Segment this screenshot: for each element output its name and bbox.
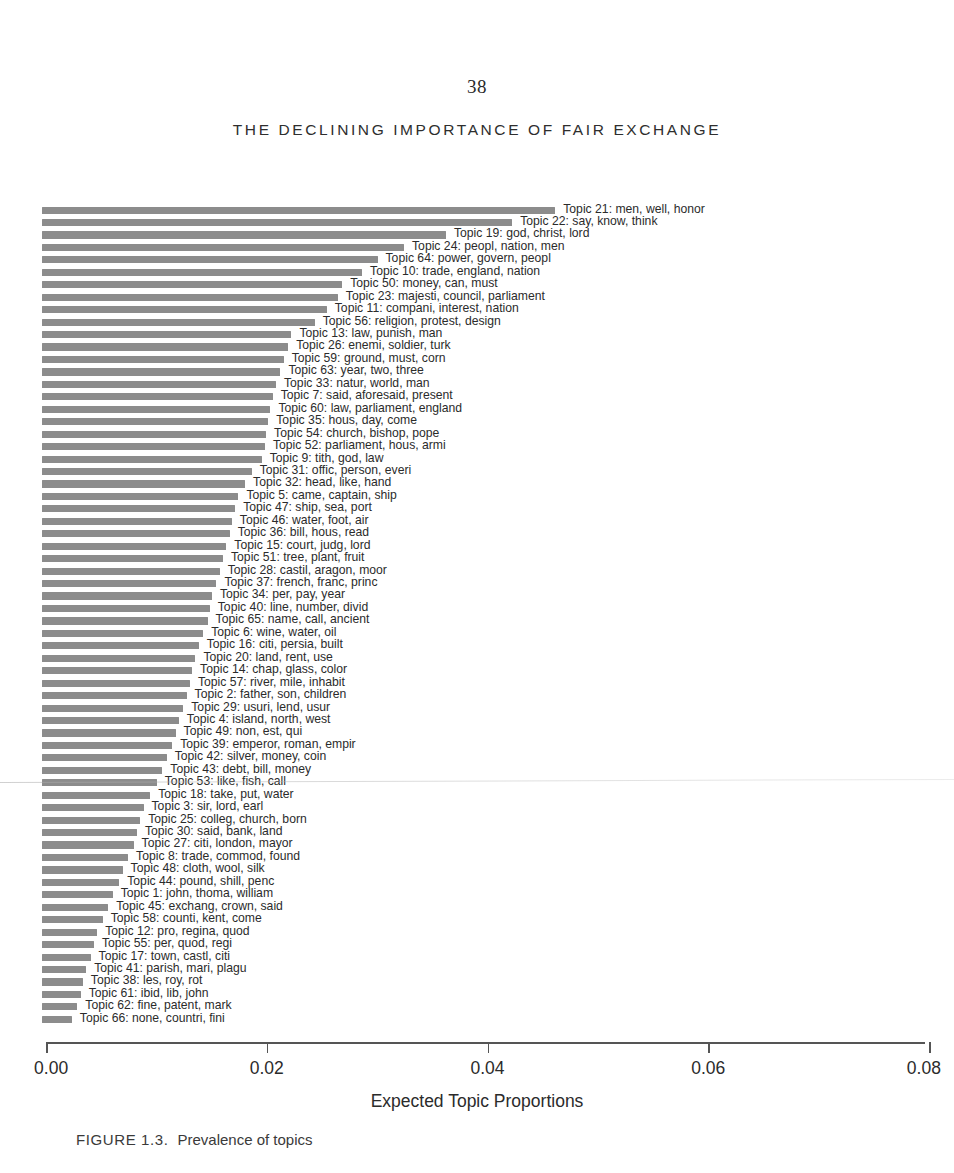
- figure-caption: FIGURE 1.3.Prevalence of topics: [76, 1131, 313, 1148]
- chart-plot-area: Topic 21: men, well, honorTopic 22: say,…: [0, 196, 954, 1026]
- chart-bar-label: Topic 58: counti, kent, come: [111, 912, 262, 924]
- chart-bar-row: Topic 20: land, rent, use: [0, 652, 954, 664]
- chart-bar-row: Topic 66: none, countri, fini: [0, 1013, 954, 1025]
- chart-bar: [42, 680, 190, 687]
- chart-bar-label: Topic 1: john, thoma, william: [121, 887, 273, 899]
- chart-bar-row: Topic 2: father, son, children: [0, 690, 954, 702]
- chart-bar: [42, 431, 266, 438]
- chart-bar: [42, 592, 212, 599]
- chart-bar-label: Topic 14: chap, glass, color: [200, 663, 347, 675]
- chart-bar: [42, 256, 378, 263]
- chart-bar: [42, 617, 208, 624]
- figure-number: FIGURE 1.3.: [76, 1131, 168, 1148]
- running-head: THE DECLINING IMPORTANCE OF FAIR EXCHANG…: [0, 121, 954, 139]
- chart-bar: [42, 655, 195, 662]
- x-axis-tick-label: 0.00: [34, 1058, 68, 1079]
- chart-bar-row: Topic 6: wine, water, oil: [0, 627, 954, 639]
- chart-bar: [42, 754, 167, 761]
- chart-bar-row: Topic 36: bill, hous, read: [0, 528, 954, 540]
- chart-bar-row: Topic 31: offic, person, everi: [0, 465, 954, 477]
- chart-bar: [42, 817, 140, 824]
- chart-bar: [42, 916, 103, 923]
- chart-bar-label: Topic 52: parliament, hous, armi: [273, 439, 446, 451]
- chart-bar: [42, 381, 276, 388]
- chart-bar-row: Topic 40: line, number, divid: [0, 602, 954, 614]
- chart-bar-label: Topic 51: tree, plant, fruit: [231, 551, 364, 563]
- x-axis-line: [46, 1042, 925, 1044]
- chart-bar-label: Topic 63: year, two, three: [288, 364, 424, 376]
- chart-bar: [42, 319, 315, 326]
- chart-bar-label: Topic 35: hous, day, come: [276, 414, 417, 426]
- chart-bar: [42, 530, 230, 537]
- x-axis-tick-label: 0.08: [907, 1058, 941, 1079]
- chart-bar-row: Topic 4: island, north, west: [0, 714, 954, 726]
- chart-bar-row: Topic 60: law, parliament, england: [0, 403, 954, 415]
- figure-prevalence-of-topics: Topic 21: men, well, honorTopic 22: say,…: [0, 196, 954, 1126]
- chart-bar-label: Topic 16: citi, persia, built: [207, 638, 343, 650]
- chart-bar-label: Topic 47: ship, sea, port: [243, 501, 372, 513]
- chart-bar: [42, 978, 83, 985]
- chart-bar-label: Topic 49: non, est, qui: [184, 725, 303, 737]
- chart-bar-label: Topic 66: none, countri, fini: [80, 1012, 225, 1024]
- chart-bar-row: Topic 51: tree, plant, fruit: [0, 553, 954, 565]
- chart-bar-label: Topic 26: enemi, soldier, turk: [296, 339, 450, 351]
- chart-bar: [42, 954, 91, 961]
- chart-bar: [42, 767, 162, 774]
- chart-bar: [42, 543, 226, 550]
- chart-bar-label: Topic 7: said, aforesaid, present: [281, 389, 453, 401]
- chart-bar-row: Topic 37: french, franc, princ: [0, 578, 954, 590]
- chart-bar: [42, 281, 342, 288]
- figure-caption-text: Prevalence of topics: [177, 1131, 312, 1148]
- chart-bar-label: Topic 64: power, govern, peopl: [386, 252, 551, 264]
- chart-bar: [42, 244, 404, 251]
- chart-bar: [42, 393, 273, 400]
- x-axis-tick: [708, 1042, 710, 1053]
- chart-bar: [42, 705, 183, 712]
- chart-bar-row: Topic 25: colleg, church, born: [0, 814, 954, 826]
- chart-bar-label: Topic 19: god, christ, lord: [454, 227, 589, 239]
- chart-bar-label: Topic 36: bill, hous, read: [238, 526, 369, 538]
- chart-bar: [42, 219, 512, 226]
- chart-bar: [42, 306, 327, 313]
- chart-bar: [42, 269, 362, 276]
- chart-bar-row: Topic 15: court, judg, lord: [0, 540, 954, 552]
- chart-bar: [42, 829, 137, 836]
- chart-bar: [42, 891, 113, 898]
- x-axis-tick-label: 0.04: [470, 1058, 504, 1079]
- chart-bar-label: Topic 48: cloth, wool, silk: [131, 862, 265, 874]
- chart-bar-label: Topic 34: per, pay, year: [220, 588, 345, 600]
- chart-bar-row: Topic 28: castil, aragon, moor: [0, 565, 954, 577]
- chart-bar: [42, 941, 94, 948]
- chart-bar: [42, 480, 245, 487]
- chart-bar-label: Topic 65: name, call, ancient: [216, 613, 370, 625]
- chart-bar-row: Topic 56: religion, protest, design: [0, 316, 954, 328]
- chart-bar: [42, 368, 280, 375]
- chart-bar: [42, 841, 134, 848]
- chart-bar: [42, 518, 232, 525]
- chart-bar: [42, 667, 192, 674]
- chart-bar-label: Topic 50: money, can, must: [350, 277, 497, 289]
- chart-bar: [42, 207, 555, 214]
- x-axis-tick: [267, 1042, 269, 1053]
- chart-bar-label: Topic 42: silver, money, coin: [175, 750, 327, 762]
- chart-bar: [42, 406, 270, 413]
- chart-bar: [42, 692, 187, 699]
- chart-bar: [42, 1016, 72, 1023]
- chart-bar: [42, 929, 97, 936]
- chart-bar: [42, 343, 288, 350]
- chart-bar-row: Topic 65: name, call, ancient: [0, 615, 954, 627]
- x-axis-tick-label: 0.06: [691, 1058, 725, 1079]
- chart-bar: [42, 605, 210, 612]
- chart-bar: [42, 729, 176, 736]
- chart-bar: [42, 294, 338, 301]
- chart-bar-label: Topic 2: father, son, children: [195, 688, 347, 700]
- chart-bar-row: Topic 29: usuri, lend, usur: [0, 702, 954, 714]
- chart-bar-row: Topic 34: per, pay, year: [0, 590, 954, 602]
- chart-bar-row: Topic 52: parliament, hous, armi: [0, 441, 954, 453]
- chart-bar-row: Topic 35: hous, day, come: [0, 416, 954, 428]
- chart-bar: [42, 866, 123, 873]
- chart-bar-label: Topic 11: compani, interest, nation: [335, 302, 519, 314]
- chart-bar: [42, 456, 262, 463]
- chart-bar: [42, 468, 252, 475]
- chart-bar: [42, 854, 128, 861]
